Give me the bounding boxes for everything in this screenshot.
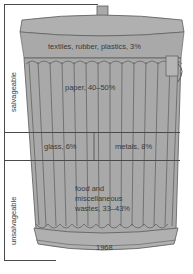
glass-metals-top-divider [4, 132, 180, 133]
salvageable-label: salvageable [9, 72, 18, 112]
metals-label: metals, 8% [115, 142, 152, 151]
food-label-line3: wastes, 33–43% [75, 204, 130, 213]
bracket-top-line [4, 4, 98, 5]
food-label-line1: food and [75, 184, 104, 193]
bracket-bottom-line [4, 260, 56, 261]
textiles-label: textiles, rubber, plastics, 3% [48, 42, 141, 51]
food-label-line2: miscellaneous [75, 194, 123, 203]
paper-label: paper, 40–50% [65, 83, 115, 92]
unsalvageable-label: unsalvageable [9, 197, 18, 245]
trash-composition-figure: salvageable unsalvageable textiles, rubb… [0, 0, 193, 274]
salvage-divider-line [4, 160, 180, 161]
glass-label: glass, 6% [44, 142, 77, 151]
year-label: 1968 [96, 243, 113, 252]
